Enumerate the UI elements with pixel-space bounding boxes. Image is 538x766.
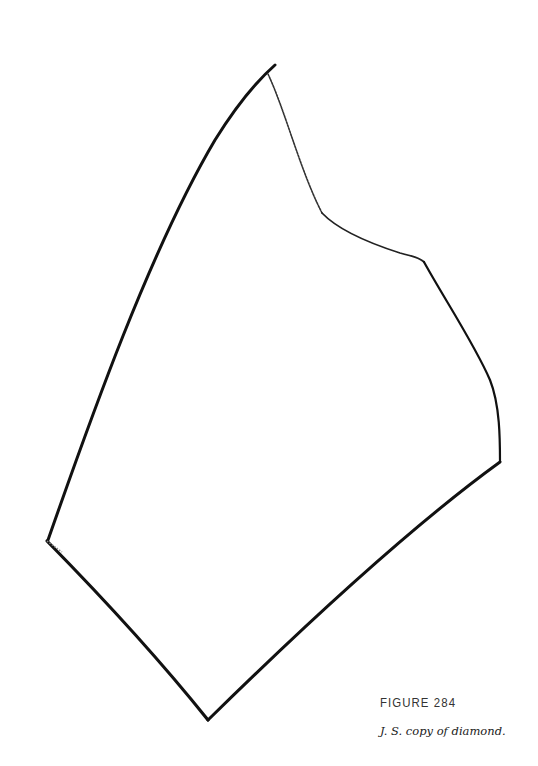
left-upper-edge [48,65,275,540]
diamond-drawing [0,0,538,766]
figure-caption-text: J. S. copy of diamond. [380,724,538,738]
top-right-edge [268,74,322,213]
figure-caption: FIGURE 284 J. S. copy of diamond. [380,695,538,738]
right-lower-edge [208,462,500,720]
left-lower-edge [47,541,208,720]
figure-label: FIGURE 284 [380,695,519,711]
notch-edge [322,213,424,262]
right-upper-edge [424,262,500,462]
